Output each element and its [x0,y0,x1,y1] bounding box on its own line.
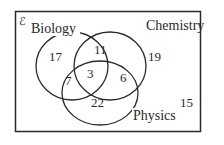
biology-label: Biology [31,21,76,36]
physics-circle [62,61,138,125]
chemistry-only-value: 19 [148,49,161,64]
biology-physics-value: 7 [65,73,72,88]
biology-chemistry-value: 11 [94,42,107,57]
outside-value: 15 [180,95,193,110]
universal-set-symbol: ℰ [19,15,26,27]
venn-diagram: ℰ Biology Chemistry Physics 17 19 11 3 7… [0,0,224,145]
chemistry-circle [74,32,146,100]
chemistry-label: Chemistry [146,18,204,33]
all-three-value: 3 [87,66,94,81]
biology-only-value: 17 [49,49,63,64]
physics-only-value: 22 [91,95,104,110]
physics-label: Physics [133,108,176,123]
chemistry-physics-value: 6 [120,70,127,85]
